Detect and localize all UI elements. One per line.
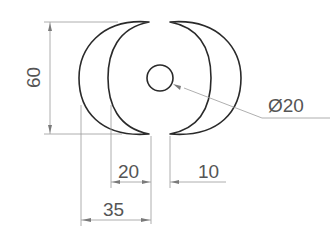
- left-crescent: [79, 22, 149, 135]
- arrow-left-10-icon: [171, 180, 179, 184]
- arrow-right-35-icon: [82, 218, 91, 222]
- dimension-label-20: 20: [118, 162, 139, 181]
- dimension-label-35: 35: [103, 200, 124, 219]
- arrow-left-35-icon: [141, 218, 150, 222]
- arrow-down-icon: [48, 125, 52, 133]
- arrow-left-icon: [142, 180, 150, 184]
- right-crescent: [170, 22, 241, 135]
- dimension-label-10: 10: [198, 162, 219, 181]
- dimension-label-60: 60: [24, 67, 43, 88]
- center-circle: [147, 65, 173, 91]
- leader-line-diameter: [184, 88, 262, 118]
- leader-arrow-icon: [173, 84, 181, 90]
- arrow-up-icon: [48, 23, 52, 31]
- technical-drawing: [0, 0, 336, 242]
- dimension-label-diameter: Ø20: [268, 96, 304, 115]
